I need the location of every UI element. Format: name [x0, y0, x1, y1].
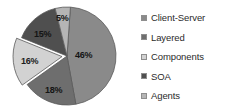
chart-legend: Client-Server Layered Components SOA Age…: [141, 8, 229, 106]
legend-item-label: Layered: [151, 33, 185, 43]
square-swatch-icon: [141, 34, 147, 40]
slice-value-label-client-server: 46%: [75, 51, 92, 60]
square-swatch-icon: [141, 93, 147, 99]
square-swatch-icon: [141, 15, 147, 21]
square-swatch-icon: [141, 73, 147, 79]
slice-value-label-layered: 18%: [45, 86, 62, 95]
legend-item-layered[interactable]: Layered: [141, 28, 229, 48]
square-swatch-icon: [141, 54, 147, 60]
legend-item-soa[interactable]: SOA: [141, 67, 229, 87]
legend-item-label: Agents: [151, 91, 180, 101]
slice-value-label-components: 16%: [21, 57, 38, 66]
legend-item-label: Client-Server: [151, 13, 205, 23]
legend-item-components[interactable]: Components: [141, 47, 229, 67]
legend-item-agents[interactable]: Agents: [141, 86, 229, 106]
slice-value-label-agents: 5%: [56, 14, 69, 23]
legend-item-label: SOA: [151, 72, 171, 82]
legend-item-label: Components: [151, 52, 204, 62]
pie-chart-figure: 46% 18% 16% 15% 5% Client-Server Layered…: [0, 0, 229, 111]
pie-plot-area: 46% 18% 16% 15% 5%: [12, 6, 130, 108]
slice-value-label-soa: 15%: [34, 30, 51, 39]
legend-item-client-server[interactable]: Client-Server: [141, 8, 229, 28]
